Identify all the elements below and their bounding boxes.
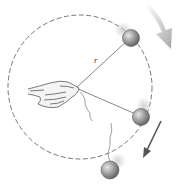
ball-top bbox=[123, 30, 140, 47]
ball-released bbox=[101, 161, 119, 179]
ball-right bbox=[133, 109, 150, 126]
radius-label: r bbox=[94, 55, 98, 65]
broken-string-hand bbox=[80, 92, 92, 121]
rotation-direction-arrow-icon bbox=[146, 4, 172, 49]
circular-motion-diagram: r bbox=[0, 0, 188, 193]
hand-icon bbox=[28, 81, 79, 107]
string-to-top-ball bbox=[76, 40, 128, 88]
tangent-velocity-arrow-icon bbox=[143, 121, 161, 158]
